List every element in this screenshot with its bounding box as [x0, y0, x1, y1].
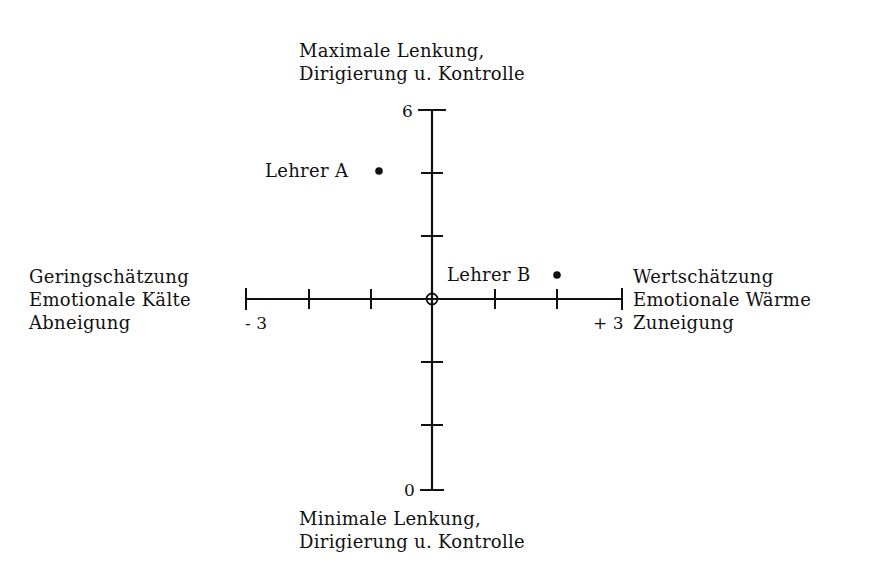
- bottom-label-line1: Minimale Lenkung,: [299, 508, 481, 530]
- point-label-lehrer-a: Lehrer A: [265, 160, 348, 182]
- point-label-lehrer-b: Lehrer B: [447, 264, 530, 286]
- right-label-line1: Wertschätzung: [633, 266, 774, 288]
- top-label-line1: Maximale Lenkung,: [299, 40, 485, 62]
- top-label-line2: Dirigierung u. Kontrolle: [299, 63, 525, 85]
- x-tick-label-min: - 3: [245, 313, 267, 333]
- left-label-line3: Abneigung: [29, 312, 130, 334]
- left-label-line1: Geringschätzung: [29, 266, 189, 288]
- y-tick-label-max: 6: [402, 101, 413, 121]
- x-tick-label-max: + 3: [593, 313, 623, 333]
- right-label-line3: Zuneigung: [633, 312, 734, 334]
- point-lehrer-a: [375, 167, 383, 175]
- y-tick-label-min: 0: [404, 480, 415, 500]
- right-label-line2: Emotionale Wärme: [633, 289, 811, 311]
- bottom-label-line2: Dirigierung u. Kontrolle: [299, 531, 525, 553]
- point-lehrer-b: [553, 271, 561, 279]
- left-label-line2: Emotionale Kälte: [29, 289, 191, 311]
